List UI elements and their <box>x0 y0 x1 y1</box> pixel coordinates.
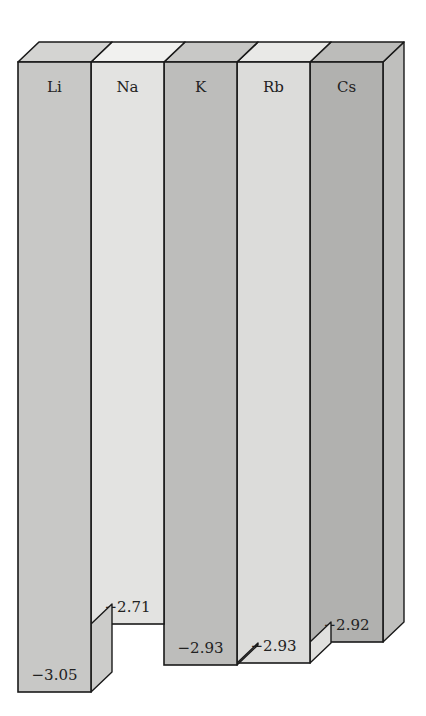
category-label: K <box>195 78 207 96</box>
bar-chart: Cs−2.92Rb−2.93K−2.93Na−2.71Li−3.05 <box>0 0 426 716</box>
category-label: Cs <box>337 78 356 96</box>
value-label: −2.93 <box>178 639 224 657</box>
bar-front-face <box>310 62 383 642</box>
bar-front-face <box>164 62 237 665</box>
bar-front-face <box>18 62 91 692</box>
bar-side-face <box>383 42 404 642</box>
bar-front-face <box>237 62 310 663</box>
category-label: Li <box>47 78 62 96</box>
bars-group: Cs−2.92Rb−2.93K−2.93Na−2.71Li−3.05 <box>18 42 404 692</box>
bar-cs: Cs−2.92 <box>310 42 404 642</box>
value-label: −3.05 <box>32 666 78 684</box>
category-label: Na <box>116 78 138 96</box>
bar-front-face <box>91 62 164 624</box>
category-label: Rb <box>263 78 284 96</box>
